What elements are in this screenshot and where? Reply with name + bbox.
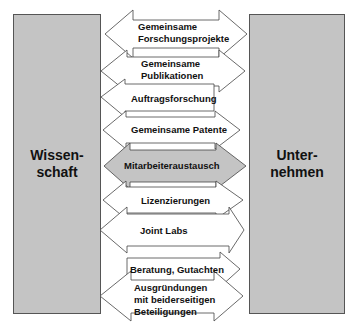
label-joint-labs: Joint Labs xyxy=(140,225,188,237)
label-ausgruendungen: Ausgründungen mit beiderseitigen Beteili… xyxy=(134,282,215,318)
label-patente: Gemeinsame Patente xyxy=(131,124,227,136)
label-forschungsprojekte: Gemeinsame Forschungsprojekte xyxy=(138,21,229,45)
label-publikationen: Gemeinsame Publikationen xyxy=(141,58,203,82)
label-mitarbeiteraustausch: Mitarbeiteraustausch xyxy=(124,160,220,172)
label-beratung: Beratung, Gutachten xyxy=(130,264,224,276)
label-lizenzierungen: Lizenzierungen xyxy=(141,195,210,207)
label-auftragsforschung: Auftragsforschung xyxy=(131,93,217,105)
